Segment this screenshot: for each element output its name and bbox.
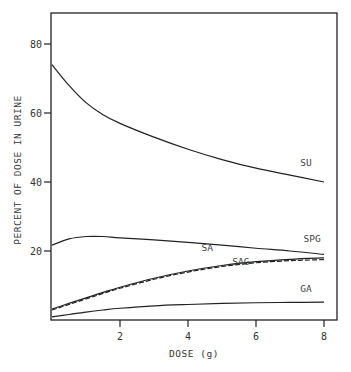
x-tick-label: 2 [117, 331, 123, 342]
y-tick-label: 80 [30, 39, 42, 50]
x-tick-label: 6 [253, 331, 259, 342]
series-line-sa [52, 258, 324, 309]
line-chart: 246820406080 SUSPGSASAGGA DOSE (g) PERCE… [0, 0, 351, 372]
series-label-sa: SA [202, 242, 214, 253]
series-label-sag: SAG [232, 256, 249, 267]
series-line-su [52, 65, 324, 182]
y-tick-label: 40 [30, 177, 42, 188]
series-label-ga: GA [300, 283, 312, 294]
series-label-su: SU [300, 157, 312, 168]
series-line-spg [52, 236, 324, 254]
y-tick-label: 60 [30, 108, 42, 119]
x-axis-title: DOSE (g) [169, 348, 219, 359]
x-tick-label: 8 [321, 331, 327, 342]
plot-frame [51, 13, 337, 320]
series-label-spg: SPG [304, 233, 321, 244]
y-axis-title: PERCENT OF DOSE IN URINE [12, 95, 23, 244]
y-tick-label: 20 [30, 246, 42, 257]
x-tick-label: 4 [185, 331, 191, 342]
series-line-ga [52, 302, 324, 317]
